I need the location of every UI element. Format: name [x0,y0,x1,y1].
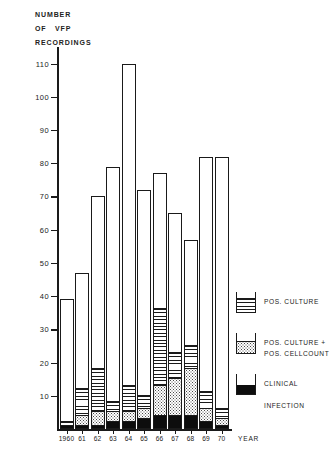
bar-68 [184,240,198,429]
bar-segment-cellcount [107,411,119,421]
y-axis-tick [51,230,58,231]
bar-segment-clinical [92,425,104,428]
legend-swatch-clinical [236,374,256,395]
y-axis-tick-label: 50 [9,259,49,268]
bar-segment-culture [76,388,88,415]
bar-1960 [60,299,74,429]
bar-segment-culture [216,408,228,418]
x-axis-tick [144,430,145,434]
bar-segment-culture [138,395,150,408]
bar-63 [106,167,120,429]
legend-item-clinical: CLINICAL INFECTION [236,374,330,398]
y-axis-tick [51,263,58,264]
y-axis-tick-label: 30 [9,325,49,334]
y-axis-tick [51,396,58,397]
bar-segment-culture [154,308,166,384]
legend-swatch-clinical-fill [237,385,255,394]
bar-segment-cellcount [169,378,181,415]
y-axis-tick [51,329,58,330]
y-axis-tick-label: 110 [9,60,49,69]
y-axis-tick [51,196,58,197]
bar-70 [215,157,229,429]
x-axis-tick [175,430,176,434]
bar-69 [199,157,213,429]
x-axis-tick [98,430,99,434]
y-axis-tick [51,363,58,364]
legend-swatch-culture-fill [237,298,255,312]
legend-item-culture: POS. CULTURE [236,292,330,316]
bar-64 [122,64,136,429]
bar-segment-culture [123,385,135,412]
bar-segment-clinical [61,425,73,428]
bar-segment-culture [169,352,181,379]
y-axis-tick-label: 100 [9,93,49,102]
legend-swatch-culture [236,292,256,313]
bar-62 [91,196,105,429]
bar-segment-culture [92,368,104,411]
bar-segment-cellcount [154,385,166,415]
x-axis-label-70: 70 [208,435,236,442]
bar-segment-cellcount [200,408,212,421]
bar-segment-culture [61,421,73,424]
y-axis-tick-label: 80 [9,159,49,168]
x-axis-tick [67,430,68,434]
bar-segment-clinical [76,425,88,428]
legend-label-culture-cellcount: POS. CULTURE + POS. CELLCOUNT [264,337,329,359]
bar-61 [75,273,89,429]
bar-segment-cellcount [76,415,88,425]
bar-segment-clinical [123,421,135,428]
legend-swatch-cellcount-fill [237,341,255,353]
bar-segment-clinical [216,425,228,428]
x-axis-tick [160,430,161,434]
y-axis-tick [51,130,58,131]
x-axis-tick [191,430,192,434]
bar-segment-culture [185,345,197,368]
y-axis-tick-label: 20 [9,359,49,368]
bar-65 [137,190,151,429]
y-axis-tick-label: 90 [9,126,49,135]
y-axis-tick [51,64,58,65]
x-axis-tick [222,430,223,434]
legend-label-clinical: CLINICAL INFECTION [264,378,304,411]
y-axis-tick [51,163,58,164]
y-axis-tick [51,296,58,297]
bar-segment-clinical [185,415,197,428]
bar-segment-clinical [169,415,181,428]
bar-segment-cellcount [185,368,197,415]
legend-item-culture-cellcount: POS. CULTURE + POS. CELLCOUNT [236,333,330,357]
y-axis-tick-label: 60 [9,226,49,235]
bar-segment-clinical [107,421,119,428]
legend-swatch-culture-cellcount [236,333,256,354]
bar-segment-cellcount [216,418,228,425]
y-axis-line [57,47,59,430]
y-axis-tick [51,97,58,98]
x-axis-tick [113,430,114,434]
x-axis-caption: YEAR [238,435,259,442]
bar-66 [153,173,167,429]
bar-segment-cellcount [138,408,150,418]
chart-legend: POS. CULTURE POS. CULTURE + POS. CELLCOU… [236,292,330,415]
bar-segment-culture [107,401,119,411]
bar-segment-clinical [154,415,166,428]
bar-segment-cellcount [123,411,135,421]
legend-label-culture: POS. CULTURE [264,296,319,307]
bar-segment-clinical [200,421,212,428]
bar-segment-clinical [138,418,150,428]
x-axis-tick [129,430,130,434]
bar-67 [168,213,182,429]
bar-segment-culture [200,391,212,408]
x-axis-tick [206,430,207,434]
y-axis-tick-label: 10 [9,392,49,401]
bar-segment-cellcount [92,411,104,424]
x-axis-tick [82,430,83,434]
y-axis-tick-label: 40 [9,292,49,301]
y-axis-tick-label: 70 [9,192,49,201]
